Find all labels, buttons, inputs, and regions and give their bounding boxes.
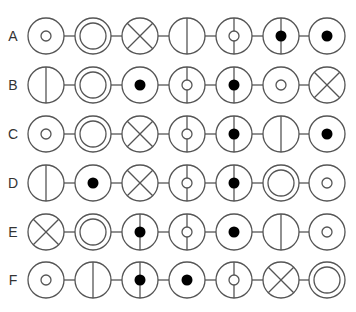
puzzle-canvas	[0, 0, 356, 312]
symbol-vertical-line-filled-dot-icon	[216, 67, 252, 103]
symbol-small-circle-icon	[28, 116, 64, 152]
symbol-vertical-line-small-circle-icon	[169, 214, 205, 250]
symbol-filled-dot-icon	[122, 67, 158, 103]
symbol-filled-dot-icon	[309, 116, 345, 152]
symbol-filled-dot-icon	[75, 165, 111, 201]
symbol-sequence-puzzle: ABCDEF	[0, 0, 356, 312]
symbol-vertical-line-icon	[169, 18, 205, 54]
symbol-vertical-line-filled-dot-icon	[122, 214, 158, 250]
symbol-vertical-line-filled-dot-icon	[263, 18, 299, 54]
symbol-vertical-line-small-circle-icon	[216, 18, 252, 54]
row-label-c: C	[3, 126, 23, 142]
row-b	[28, 67, 345, 103]
symbol-small-circle-icon	[263, 67, 299, 103]
symbol-double-ring-icon	[75, 214, 111, 250]
symbol-filled-dot-icon	[169, 262, 205, 298]
row-a	[28, 18, 345, 54]
symbol-filled-dot-icon	[309, 18, 345, 54]
symbol-x-cross-icon	[122, 18, 158, 54]
symbol-vertical-line-filled-dot-icon	[216, 165, 252, 201]
symbol-x-cross-icon	[263, 262, 299, 298]
symbol-small-circle-icon	[28, 262, 64, 298]
symbol-vertical-line-small-circle-icon	[169, 165, 205, 201]
symbol-filled-dot-icon	[216, 214, 252, 250]
symbol-small-circle-icon	[309, 165, 345, 201]
symbol-x-cross-icon	[309, 67, 345, 103]
symbol-vertical-line-small-circle-icon	[169, 67, 205, 103]
symbol-vertical-line-icon	[263, 214, 299, 250]
symbol-x-cross-icon	[122, 116, 158, 152]
symbol-vertical-line-icon	[75, 262, 111, 298]
row-c	[28, 116, 345, 152]
row-d	[28, 165, 345, 201]
symbol-vertical-line-icon	[28, 165, 64, 201]
symbol-vertical-line-filled-dot-icon	[122, 262, 158, 298]
symbol-x-cross-icon	[28, 214, 64, 250]
symbol-x-cross-icon	[122, 165, 158, 201]
symbol-small-circle-icon	[28, 18, 64, 54]
symbol-vertical-line-small-circle-icon	[216, 262, 252, 298]
row-f	[28, 262, 345, 298]
symbol-double-ring-icon	[309, 262, 345, 298]
row-label-d: D	[3, 175, 23, 191]
row-e	[28, 214, 345, 250]
row-label-a: A	[3, 28, 23, 44]
row-label-e: E	[3, 224, 23, 240]
symbol-double-ring-icon	[75, 18, 111, 54]
symbol-vertical-line-icon	[28, 67, 64, 103]
row-label-f: F	[3, 272, 23, 288]
row-label-b: B	[3, 77, 23, 93]
symbol-vertical-line-icon	[263, 116, 299, 152]
symbol-double-ring-icon	[263, 165, 299, 201]
symbol-small-circle-icon	[309, 214, 345, 250]
symbol-double-ring-icon	[75, 67, 111, 103]
symbol-double-ring-icon	[75, 116, 111, 152]
symbol-vertical-line-small-circle-icon	[169, 116, 205, 152]
symbol-vertical-line-filled-dot-icon	[216, 116, 252, 152]
